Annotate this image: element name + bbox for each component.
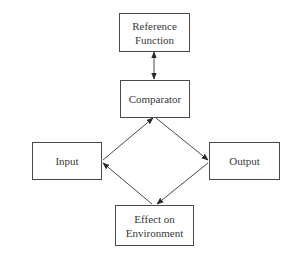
- node-output: Output: [209, 142, 280, 180]
- edge-comparator-output: [156, 118, 208, 160]
- node-comparator: Comparator: [120, 80, 190, 118]
- node-label: Comparator: [129, 92, 182, 106]
- edge-output-effect: [157, 163, 208, 204]
- node-input: Input: [32, 142, 102, 180]
- node-label: Effect on Environment: [126, 212, 183, 240]
- diagram-canvas: Reference Function Comparator Input Outp…: [0, 0, 297, 254]
- edge-input-comparator: [103, 118, 153, 160]
- node-reference-function: Reference Function: [119, 13, 190, 52]
- node-effect-on-environment: Effect on Environment: [115, 205, 194, 246]
- edge-effect-input: [103, 163, 152, 204]
- node-label: Output: [229, 154, 260, 168]
- node-label: Reference Function: [132, 19, 177, 47]
- node-label: Input: [55, 154, 78, 168]
